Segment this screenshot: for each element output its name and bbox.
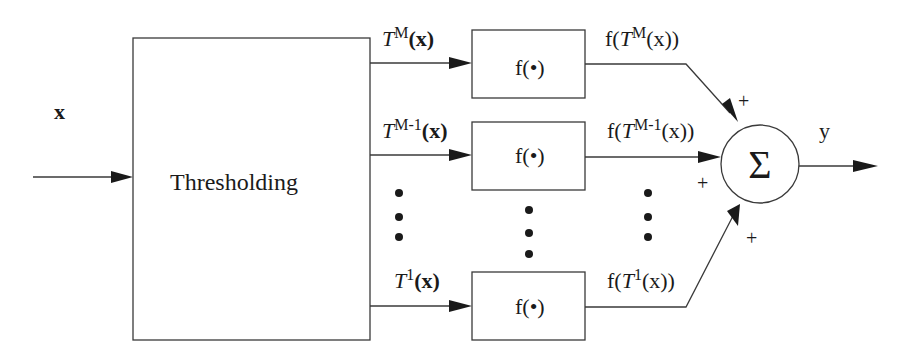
channel-m1-f-label: f(•): [515, 143, 545, 168]
input-arrowhead-icon: [111, 171, 133, 183]
sigma-icon: Σ: [748, 142, 771, 187]
channel-m1-input-arrowhead-icon: [449, 149, 472, 161]
input-label: x: [54, 99, 65, 124]
channel-m-input-label: TM(x): [382, 24, 434, 51]
channel-m-f-label: f(•): [515, 55, 545, 80]
channel-m-output-label: f(TM(x)): [605, 24, 679, 51]
threshold-decomposition-diagram: x Thresholding TM(x) f(•) f(TM(x)) + TM-…: [0, 0, 899, 361]
channel-1-input-label: T1(x): [394, 266, 440, 293]
channel-m-output-line: [585, 64, 730, 113]
thresholding-label: Thresholding: [170, 169, 298, 195]
channel-m-input-arrowhead-icon: [449, 57, 472, 69]
output-label: y: [819, 118, 830, 143]
output-ellipsis-dots: [644, 189, 652, 241]
channel-m1-input-label: TM-1(x): [382, 116, 447, 143]
input-ellipsis-dots: [395, 189, 403, 241]
channel-m-output-arrowhead-icon: [722, 98, 738, 122]
output-arrowhead-icon: [853, 160, 878, 172]
channel-1-input-arrowhead-icon: [449, 300, 472, 312]
channel-m-sign: +: [738, 90, 749, 112]
channel-1-output-line: [585, 214, 734, 307]
channel-m1-sign: +: [697, 172, 708, 194]
channel-1-f-label: f(•): [515, 294, 545, 319]
channel-1-output-label: f(T1(x)): [607, 266, 675, 293]
channel-1-sign: +: [746, 227, 757, 249]
block-ellipsis-dots: [525, 206, 533, 258]
channel-m1-output-arrowhead-icon: [698, 151, 721, 163]
channel-m1-output-label: f(TM-1(x)): [607, 116, 694, 143]
